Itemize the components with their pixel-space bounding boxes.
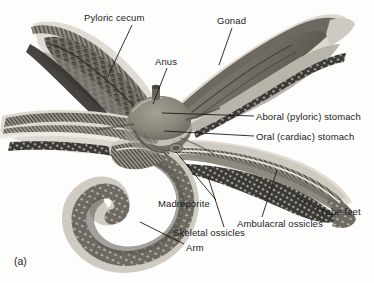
callout-label-madreporite: Madreporite	[158, 199, 210, 209]
callout-label-tube-feet: Tube feet	[320, 207, 361, 217]
callout-label-arm: Arm	[186, 243, 204, 253]
callout-label-skeletal-ossicles: Skeletal ossicles	[173, 228, 245, 238]
callout-label-anus: Anus	[155, 57, 177, 67]
callout-label-ambulacral-ossicles: Ambulacral ossicles	[237, 219, 323, 229]
sea-star-anatomy-figure: Pyloric cecumGonadAnusAboral (pyloric) s…	[0, 0, 374, 283]
callout-label-gonad: Gonad	[217, 16, 246, 26]
callout-label-pyloric-cecum: Pyloric cecum	[84, 13, 144, 23]
callout-label-aboral-pyloric-stomach: Aboral (pyloric) stomach	[256, 112, 361, 122]
figure-caption-label: (a)	[14, 255, 27, 267]
callout-label-oral-cardiac-stomach: Oral (cardiac) stomach	[256, 132, 354, 142]
